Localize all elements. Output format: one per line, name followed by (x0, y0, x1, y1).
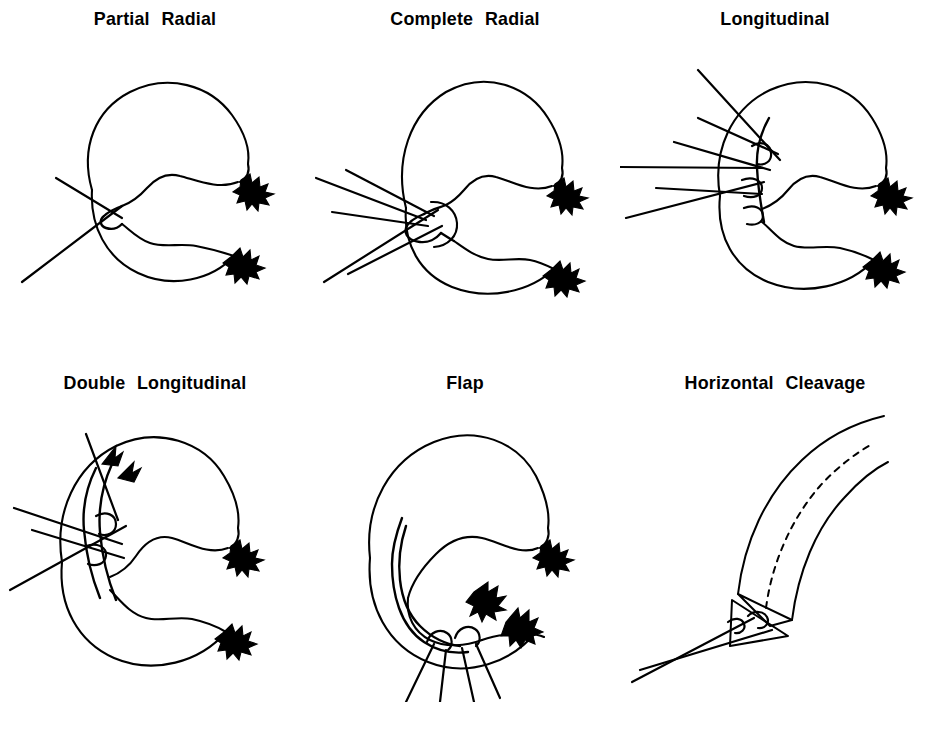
anterior-horn-attachment-icon (871, 178, 912, 215)
probe-shaft-2 (440, 650, 446, 702)
artwork-flap (310, 394, 620, 702)
tear-horizontal-cleavage-plane (766, 444, 872, 608)
meniscus-inner-edge-upper (110, 537, 228, 577)
artwork-double-longitudinal (0, 394, 310, 682)
panel-title-partial-radial: Partial Radial (9, 8, 300, 30)
anterior-horn-attachment-icon (223, 540, 264, 577)
anterior-horn-attachment-icon (233, 174, 274, 211)
panel-title-horizontal-cleavage: Horizontal Cleavage (629, 372, 920, 394)
panel-flap: Flap (310, 372, 620, 712)
meniscus-inner-edge-lower (110, 590, 226, 632)
panel-horizontal-cleavage: Horizontal Cleavage (620, 372, 930, 712)
probe-shaft-3 (462, 648, 474, 702)
panel-title-longitudinal: Longitudinal (629, 8, 920, 30)
anterior-horn-attachment-icon (547, 178, 588, 215)
meniscus-outer-rim-lower (406, 208, 554, 294)
inner-tear-jag-1 (466, 582, 506, 622)
meniscus-inner-edge-upper (122, 175, 238, 206)
panel-title-flap: Flap (319, 372, 610, 394)
panel-title-complete-radial: Complete Radial (319, 8, 610, 30)
meniscus-outer-rim-lower (61, 562, 226, 666)
probe-loop-3 (744, 206, 763, 224)
meniscus-superior-surface (738, 416, 884, 594)
panel-complete-radial: Complete Radial (310, 8, 620, 308)
meniscal-tear-figure: Partial Radial (0, 0, 930, 731)
anterior-horn-attachment-icon (533, 540, 574, 577)
meniscus-outer-rim-lower (92, 190, 234, 281)
artwork-complete-radial (310, 30, 620, 298)
probe-shaft-1 (698, 70, 780, 160)
meniscus-inner-edge-upper (446, 176, 552, 205)
panel-partial-radial: Partial Radial (0, 8, 310, 308)
panel-double-longitudinal: Double Longitudinal (0, 372, 310, 692)
probe-shaft-2 (346, 170, 434, 216)
panel-longitudinal: Longitudinal (620, 8, 930, 308)
meniscus-inner-edge-lower (454, 241, 554, 269)
meniscus-outer-rim-lower (719, 196, 874, 289)
meniscus-inner-edge-upper (408, 537, 538, 598)
probe-shaft-2 (56, 178, 122, 218)
artwork-horizontal-cleavage (620, 394, 930, 702)
probe-shaft-4 (620, 167, 762, 168)
probe-shaft-1 (22, 206, 122, 282)
probe-shaft-4 (476, 644, 500, 698)
probe-shaft-5 (656, 188, 762, 194)
meniscus-inner-edge-upper (762, 176, 876, 209)
artwork-longitudinal (620, 30, 930, 298)
meniscus-inner-edge-lower (122, 224, 234, 256)
probe-shaft-6 (626, 182, 764, 218)
panel-title-double-longitudinal: Double Longitudinal (9, 372, 300, 394)
meniscus-inferior-surface (792, 462, 888, 620)
meniscus-inner-edge-lower (762, 222, 874, 260)
probe-shaft-5 (348, 226, 442, 274)
probe-shaft-4 (324, 210, 438, 282)
artwork-partial-radial (0, 30, 310, 298)
meniscus-outer-rim (60, 437, 238, 562)
probe-shaft-2 (640, 630, 772, 670)
meniscus-outer-rim (88, 83, 249, 190)
tear-spicule-2 (118, 462, 141, 482)
probe-shaft-1 (632, 618, 754, 682)
inner-tear-jag-2 (501, 608, 543, 648)
